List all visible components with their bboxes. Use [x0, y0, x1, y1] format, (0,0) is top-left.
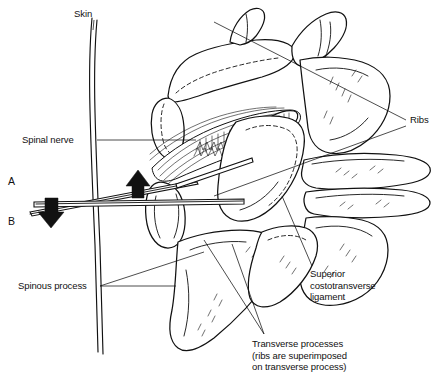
label-spinal-nerve: Spinal nerve	[22, 134, 74, 146]
label-needle-a: A	[8, 176, 15, 188]
label-spinous-process: Spinous process	[18, 280, 87, 292]
anatomy-figure: Skin Spinal nerve A B Spinous process Ri…	[0, 0, 440, 375]
label-superior-costotransverse-ligament: Superior costotransverse ligament	[310, 268, 376, 303]
label-ribs: Ribs	[410, 114, 429, 126]
anatomy-illustration	[0, 0, 440, 375]
skin-surface	[90, 18, 103, 354]
label-skin: Skin	[74, 8, 92, 20]
label-transverse-processes: Transverse processes (ribs are superimpo…	[252, 338, 347, 373]
label-needle-b: B	[8, 216, 15, 228]
rib-lower	[302, 154, 431, 218]
needle-b	[34, 199, 244, 207]
leader-skin	[93, 20, 94, 30]
